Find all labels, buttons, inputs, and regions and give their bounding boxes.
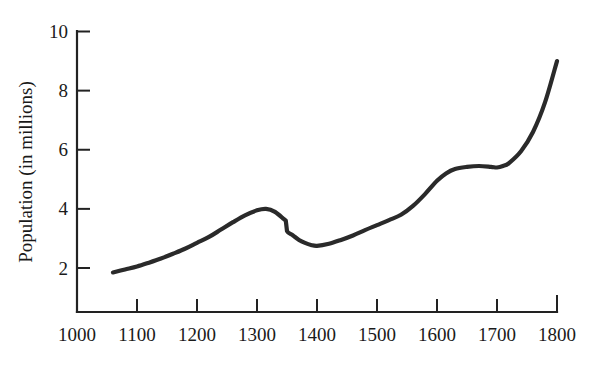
y-tick-label-4: 4 bbox=[59, 198, 69, 219]
x-tick-label-1400: 1400 bbox=[298, 324, 336, 345]
y-tick-label-8: 8 bbox=[59, 80, 69, 101]
population-chart-figure: 246810 Population (in millions) 10001100… bbox=[0, 0, 602, 370]
x-tick-marks bbox=[77, 295, 557, 312]
y-tick-label-10: 10 bbox=[49, 21, 68, 42]
population-line bbox=[113, 61, 557, 272]
y-tick-labels: 246810 bbox=[49, 21, 69, 279]
x-tick-label-1800: 1800 bbox=[538, 324, 576, 345]
chart-canvas: 246810 Population (in millions) 10001100… bbox=[0, 0, 602, 370]
x-tick-label-1500: 1500 bbox=[358, 324, 396, 345]
y-tick-marks bbox=[77, 32, 90, 269]
y-tick-label-2: 2 bbox=[59, 258, 69, 279]
y-axis-group: 246810 Population (in millions) bbox=[15, 21, 90, 312]
y-tick-label-6: 6 bbox=[59, 139, 69, 160]
x-tick-label-1000: 1000 bbox=[58, 324, 96, 345]
series-group bbox=[113, 61, 557, 272]
x-tick-labels: 100011001200130014001500160017001800 bbox=[58, 324, 576, 345]
x-axis-group: 100011001200130014001500160017001800 bbox=[58, 295, 576, 345]
x-tick-label-1300: 1300 bbox=[238, 324, 276, 345]
x-tick-label-1200: 1200 bbox=[178, 324, 216, 345]
x-tick-label-1600: 1600 bbox=[418, 324, 456, 345]
x-tick-label-1100: 1100 bbox=[118, 324, 155, 345]
x-tick-label-1700: 1700 bbox=[478, 324, 516, 345]
y-axis-title: Population (in millions) bbox=[15, 81, 37, 263]
